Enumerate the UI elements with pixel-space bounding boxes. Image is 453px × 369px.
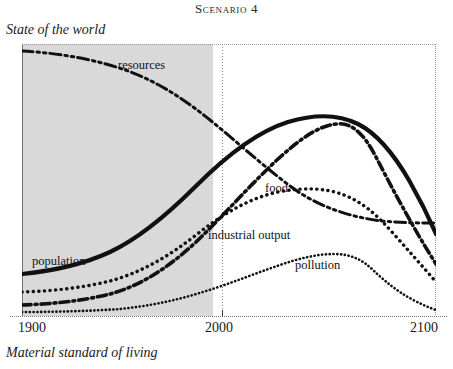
curve-label-resources: resources bbox=[118, 58, 165, 73]
x-tick-2100: 2100 bbox=[410, 320, 438, 336]
x-tick-1900: 1900 bbox=[18, 320, 46, 336]
x-tick-2000: 2000 bbox=[205, 320, 233, 336]
curve-label-population: population bbox=[32, 254, 85, 269]
chart-svg bbox=[0, 0, 453, 369]
history-shaded-band bbox=[22, 44, 213, 316]
curve-label-pollution: pollution bbox=[295, 258, 340, 273]
curve-label-food: food bbox=[265, 181, 288, 196]
scenario-chart-figure: Scenario 4 State of the world Material s… bbox=[0, 0, 453, 369]
curve-label-industrial-output: industrial output bbox=[208, 228, 290, 243]
plot-area bbox=[0, 0, 453, 369]
